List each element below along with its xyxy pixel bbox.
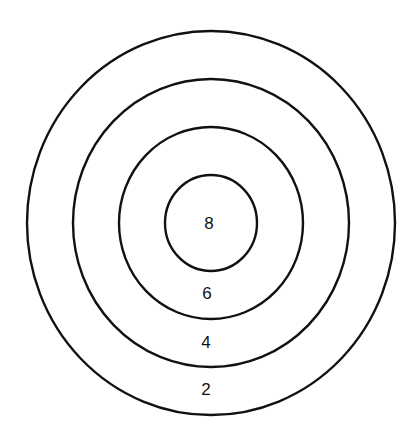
target-diagram: 8 6 4 2	[0, 0, 415, 439]
third-ring-score-label: 6	[202, 284, 211, 303]
second-ring-score-label: 4	[201, 333, 210, 352]
outer-ring-score-label: 2	[201, 380, 210, 399]
bullseye-score-label: 8	[204, 214, 213, 233]
